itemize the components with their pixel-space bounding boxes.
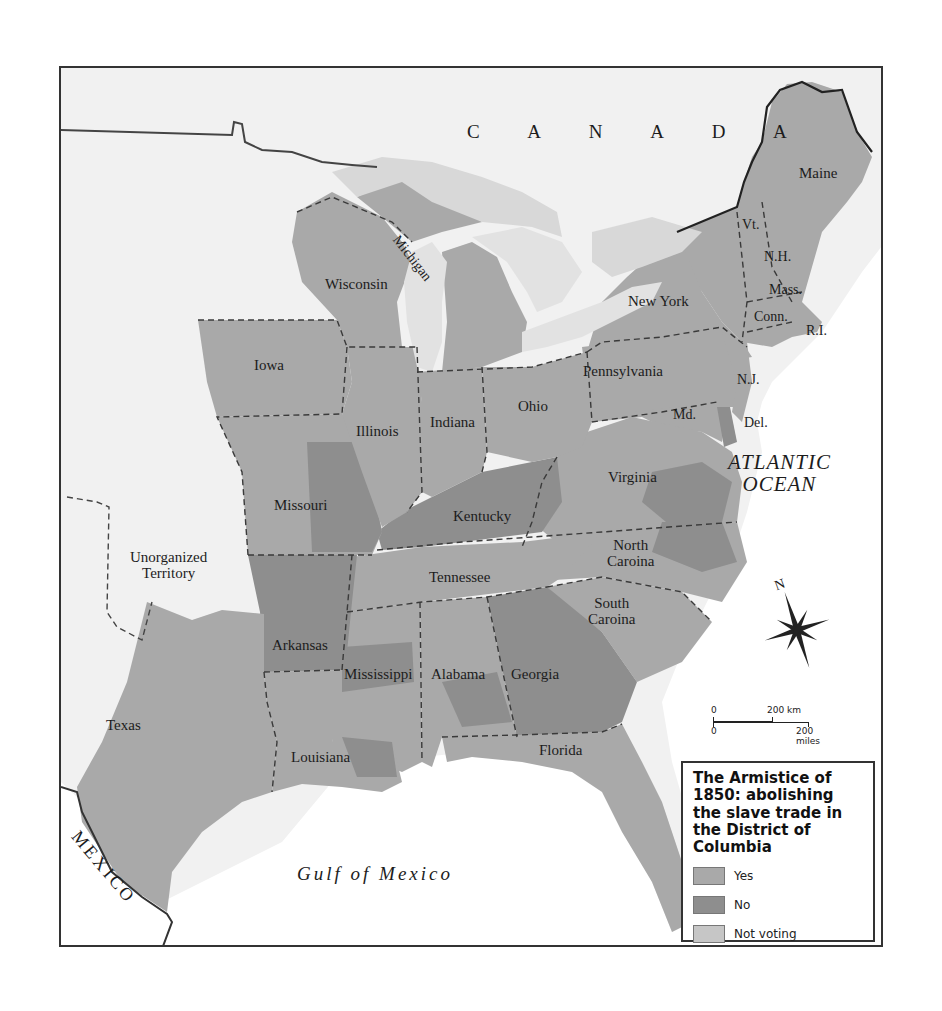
label-canada: C A N A D A	[467, 122, 809, 142]
label-kentucky: Kentucky	[453, 509, 511, 525]
label-florida: Florida	[539, 743, 582, 759]
legend-swatch-yes	[693, 867, 725, 885]
label-south-carolina: SouthCaroina	[588, 596, 635, 628]
label-virginia: Virginia	[608, 470, 657, 486]
territory-line2: Territory	[142, 565, 195, 581]
label-new-york: New York	[628, 294, 689, 310]
legend-label-no: No	[734, 898, 750, 912]
label-maryland: Md.	[673, 408, 696, 423]
legend-item-no: No	[693, 896, 863, 914]
label-alabama: Alabama	[431, 667, 485, 683]
nc-line2: Caroina	[607, 553, 654, 569]
label-indiana: Indiana	[430, 415, 475, 431]
sc-line1: South	[594, 595, 629, 611]
scale-bar: 0 200 km 0 200 miles	[711, 705, 811, 737]
compass-star-icon	[757, 578, 837, 668]
label-connecticut: Conn.	[754, 310, 788, 325]
legend-item-yes: Yes	[693, 867, 863, 885]
legend-label-yes: Yes	[734, 869, 753, 883]
label-missouri: Missouri	[274, 498, 327, 514]
scale-mi-bar	[713, 722, 809, 727]
label-iowa: Iowa	[254, 358, 284, 374]
label-arkansas: Arkansas	[272, 638, 328, 654]
atlantic-line1: ATLANTIC	[728, 450, 831, 474]
legend-swatch-no	[693, 896, 725, 914]
region-arkansas	[248, 555, 357, 672]
label-tennessee: Tennessee	[429, 570, 490, 586]
label-north-carolina: NorthCaroina	[607, 538, 654, 570]
scale-km-label: 200 km	[767, 705, 801, 715]
legend-title: The Armistice of 1850: abolishing the sl…	[693, 770, 863, 856]
scale-mi-zero: 0	[711, 726, 717, 736]
label-georgia: Georgia	[511, 667, 559, 683]
label-louisiana: Louisiana	[291, 750, 350, 766]
scale-km-zero: 0	[711, 705, 717, 715]
legend-label-not-voting: Not voting	[734, 927, 797, 941]
label-gulf-of-mexico: Gulf of Mexico	[297, 864, 453, 884]
label-maine: Maine	[799, 166, 837, 182]
label-new-hampshire: N.H.	[764, 250, 791, 265]
legend: The Armistice of 1850: abolishing the sl…	[681, 761, 875, 942]
compass-rose: N	[757, 578, 837, 668]
label-texas: Texas	[106, 718, 141, 734]
label-delaware: Del.	[744, 416, 768, 431]
canada-border	[61, 122, 377, 167]
label-mississippi: Mississippi	[344, 667, 412, 683]
label-new-jersey: N.J.	[737, 373, 760, 388]
label-illinois: Illinois	[356, 424, 399, 440]
label-wisconsin: Wisconsin	[325, 277, 388, 293]
label-pennsylvania: Pennsylvania	[583, 364, 663, 380]
label-atlantic: ATLANTICOCEAN	[728, 451, 831, 495]
territory-line1: Unorganized	[130, 549, 207, 565]
sc-line2: Caroina	[588, 611, 635, 627]
label-unorganized-territory: UnorganizedTerritory	[130, 550, 207, 582]
label-massachusetts: Mass.	[769, 283, 802, 298]
scale-mi-label: 200 miles	[796, 726, 820, 746]
label-vermont: Vt.	[742, 218, 760, 233]
label-ohio: Ohio	[518, 399, 548, 415]
label-rhode-island: R.I.	[806, 324, 827, 339]
legend-swatch-not-voting	[693, 925, 725, 943]
legend-item-not-voting: Not voting	[693, 925, 863, 943]
atlantic-line2: OCEAN	[743, 472, 817, 496]
nc-line1: North	[613, 537, 648, 553]
